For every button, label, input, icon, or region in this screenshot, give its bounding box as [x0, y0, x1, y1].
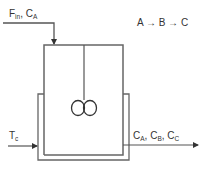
outlet-label: CA, CB, CC — [133, 131, 179, 143]
outlet-conc-c-symbol: C — [167, 130, 174, 141]
inlet-conc-subscript: A — [33, 13, 37, 20]
reaction-label: A → B → C — [137, 18, 188, 28]
coolant-temp-subscript: c — [15, 135, 18, 142]
impeller-icon — [72, 101, 97, 116]
coolant-label: Tc — [9, 131, 18, 143]
outlet-conc-c-subscript: C — [175, 135, 180, 142]
inlet-conc-symbol: C — [26, 8, 33, 19]
inlet-feed-line — [3, 23, 54, 44]
inlet-label: Fin, CA — [9, 9, 37, 21]
